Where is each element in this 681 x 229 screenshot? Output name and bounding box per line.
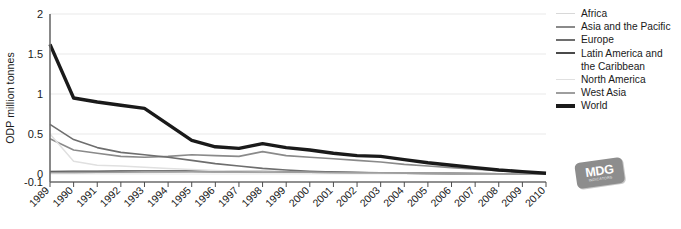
- y-tick-label: 1: [37, 88, 43, 100]
- x-tick-label: 2004: [381, 184, 406, 209]
- legend-item[interactable]: North America: [556, 73, 680, 86]
- x-tick-label: 1997: [215, 184, 240, 209]
- x-tick-label: 2002: [333, 184, 358, 209]
- legend-color-swatch: [556, 47, 575, 60]
- legend-item-label: World: [581, 99, 607, 112]
- x-tick-label: 1994: [145, 184, 170, 209]
- x-tick-label: 2009: [499, 184, 524, 209]
- x-tick-label: 2006: [428, 184, 453, 209]
- legend-item-label: Asia and the Pacific: [581, 20, 670, 33]
- x-tick-label: 1996: [192, 184, 217, 209]
- y-tick-label: 0.5: [28, 128, 43, 140]
- x-tick-label: 1993: [121, 184, 146, 209]
- series-line: [50, 44, 546, 173]
- x-tick-label: 1990: [50, 184, 75, 209]
- x-tick-label: 1995: [168, 184, 193, 209]
- legend-item[interactable]: Latin America and the Caribbean: [556, 47, 680, 73]
- x-tick-label: 1991: [74, 184, 99, 209]
- legend-color-swatch: [556, 33, 575, 46]
- legend-item-label: Latin America and the Caribbean: [581, 47, 663, 73]
- y-axis-title-text: ODP million tonnes: [4, 52, 16, 143]
- x-axis: [50, 182, 546, 187]
- legend-item-label: North America: [581, 73, 646, 86]
- x-tick-label: 2010: [522, 184, 547, 209]
- legend-item[interactable]: Asia and the Pacific: [556, 20, 680, 33]
- x-tick-label: 2001: [310, 184, 335, 209]
- x-tick-label: 2005: [404, 184, 429, 209]
- x-tick-label: 1998: [239, 184, 264, 209]
- legend-item[interactable]: Africa: [556, 7, 680, 20]
- y-tick-label: 2: [37, 8, 43, 20]
- x-tick-labels: 1989199019911992199319941995199619971998…: [26, 184, 547, 209]
- legend-item[interactable]: West Asia: [556, 86, 680, 99]
- legend-item[interactable]: World: [556, 99, 680, 112]
- logo-badge: MDG INDICATORS: [574, 157, 625, 189]
- legend-item-label: Africa: [581, 7, 607, 20]
- x-tick-label: 2007: [452, 184, 477, 209]
- y-axis-title: ODP million tonnes: [4, 52, 16, 143]
- x-tick-label: 1999: [263, 184, 288, 209]
- legend-item-label: West Asia: [581, 86, 626, 99]
- x-tick-label: 2000: [286, 184, 311, 209]
- y-tick-labels: 21.510.50-0.1: [24, 8, 43, 188]
- y-tick-label: 1.5: [28, 48, 43, 60]
- x-tick-label: 2008: [475, 184, 500, 209]
- legend-color-swatch: [556, 20, 575, 33]
- ozone-depleting-substances-line-chart: 21.510.50-0.1 19891990199119921993199419…: [0, 0, 681, 229]
- chart-legend: AfricaAsia and the PacificEuropeLatin Am…: [556, 7, 680, 113]
- legend-item-label: Europe: [581, 33, 614, 46]
- x-tick-label: 1992: [97, 184, 122, 209]
- x-tick-label: 2003: [357, 184, 382, 209]
- legend-color-swatch: [556, 99, 575, 112]
- legend-item[interactable]: Europe: [556, 33, 680, 46]
- legend-color-swatch: [556, 73, 575, 86]
- series-lines: [50, 44, 546, 174]
- legend-color-swatch: [556, 7, 575, 20]
- legend-color-swatch: [556, 86, 575, 99]
